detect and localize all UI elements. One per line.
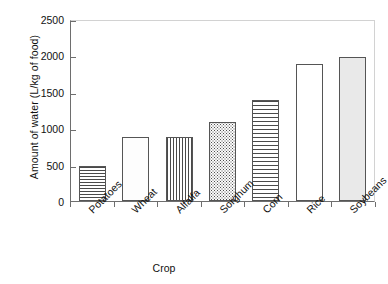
bar-group [71, 21, 374, 201]
bar-slot-corn [244, 21, 287, 201]
x-axis-title-text: Crop [153, 262, 176, 274]
bar-slot-potatoes [71, 21, 114, 201]
x-axis-title: Crop [0, 262, 388, 274]
y-tick-label: 1500 [22, 87, 64, 99]
bar-sorghum[interactable] [209, 122, 236, 201]
bar-slot-rice [287, 21, 330, 201]
y-tick-label: 2000 [22, 50, 64, 62]
bar-soybeans[interactable] [339, 57, 366, 201]
y-tick-label: 2500 [22, 14, 64, 26]
y-tick-label: 0 [22, 196, 64, 208]
bar-slot-wheat [114, 21, 157, 201]
y-tick-label: 500 [22, 160, 64, 172]
y-axis-tick-labels: 2500 2000 1500 1000 500 0 [18, 0, 64, 284]
plot-area [70, 20, 375, 202]
bar-slot-soybeans [331, 21, 374, 201]
x-tick-mark [375, 202, 376, 207]
x-axis-category-labels: Potatoes Wheat Alfalfa Sorghum Corn Rice… [70, 207, 375, 267]
bar-slot-sorghum [201, 21, 244, 201]
bar-slot-alfalfa [158, 21, 201, 201]
y-tick-label: 1000 [22, 123, 64, 135]
bar-corn[interactable] [252, 100, 279, 201]
bar-rice[interactable] [296, 64, 323, 201]
bar-chart-figure: Amount of water (L/kg of food) 2500 2000… [0, 0, 388, 284]
